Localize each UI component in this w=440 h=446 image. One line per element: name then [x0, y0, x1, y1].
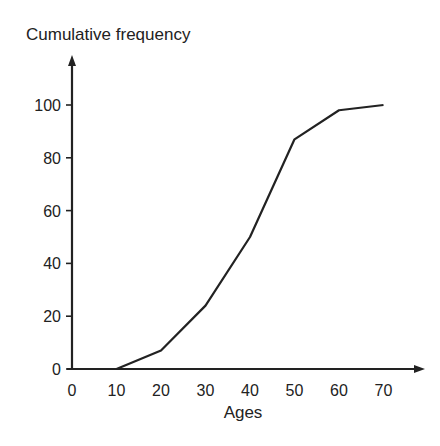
y-tick-label: 20 [43, 308, 61, 325]
x-ticks: 010203040506070 [68, 382, 393, 399]
x-tick-label: 0 [68, 382, 77, 399]
x-tick-label: 60 [330, 382, 348, 399]
x-tick-label: 50 [286, 382, 304, 399]
axes [67, 55, 425, 373]
y-tick-label: 100 [34, 97, 61, 114]
x-tick-label: 20 [152, 382, 170, 399]
y-tick-label: 40 [43, 255, 61, 272]
y-axis-arrow-icon [68, 55, 76, 66]
y-ticks: 020406080100 [34, 97, 72, 378]
x-axis-arrow-icon [414, 365, 425, 373]
x-tick-label: 10 [108, 382, 126, 399]
x-axis-label: Ages [224, 403, 263, 422]
y-axis-label: Cumulative frequency [26, 25, 191, 44]
cumulative-frequency-chart: Cumulative frequency Ages 020406080100 0… [0, 0, 440, 446]
y-tick-label: 80 [43, 150, 61, 167]
x-tick-label: 70 [375, 382, 393, 399]
cumulative-frequency-line [117, 105, 384, 369]
x-tick-label: 40 [241, 382, 259, 399]
x-tick-label: 30 [197, 382, 215, 399]
y-tick-label: 60 [43, 203, 61, 220]
y-tick-label: 0 [52, 361, 61, 378]
